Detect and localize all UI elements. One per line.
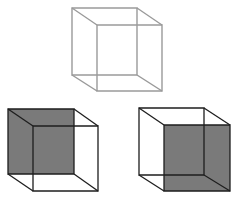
back-face-fill [8, 109, 74, 174]
necker-cube-diagram [0, 0, 242, 200]
front-face-fill [164, 125, 230, 191]
